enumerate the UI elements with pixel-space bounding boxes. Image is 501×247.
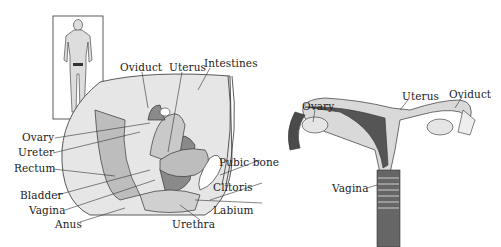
- label-anus: Anus: [55, 218, 82, 230]
- label-uterus-right: Uterus: [402, 90, 439, 102]
- label-ureter: Ureter: [18, 146, 54, 158]
- label-clitoris: Clitoris: [213, 181, 253, 193]
- label-labium: Labium: [213, 204, 254, 216]
- label-rectum: Rectum: [14, 162, 56, 174]
- label-pubic-bone: Pubic bone: [219, 156, 279, 168]
- label-vagina: Vagina: [29, 204, 66, 216]
- label-intestines: Intestines: [204, 57, 258, 69]
- frontal-view: [288, 98, 475, 247]
- label-ovary: Ovary: [22, 131, 54, 143]
- label-bladder: Bladder: [20, 189, 63, 201]
- label-urethra: Urethra: [172, 218, 215, 230]
- label-ovary-right: Ovary: [302, 100, 334, 112]
- label-oviduct-right: Oviduct: [449, 88, 491, 100]
- label-oviduct: Oviduct: [120, 61, 162, 73]
- label-vagina-right: Vagina: [332, 182, 369, 194]
- label-uterus: Uterus: [169, 61, 206, 73]
